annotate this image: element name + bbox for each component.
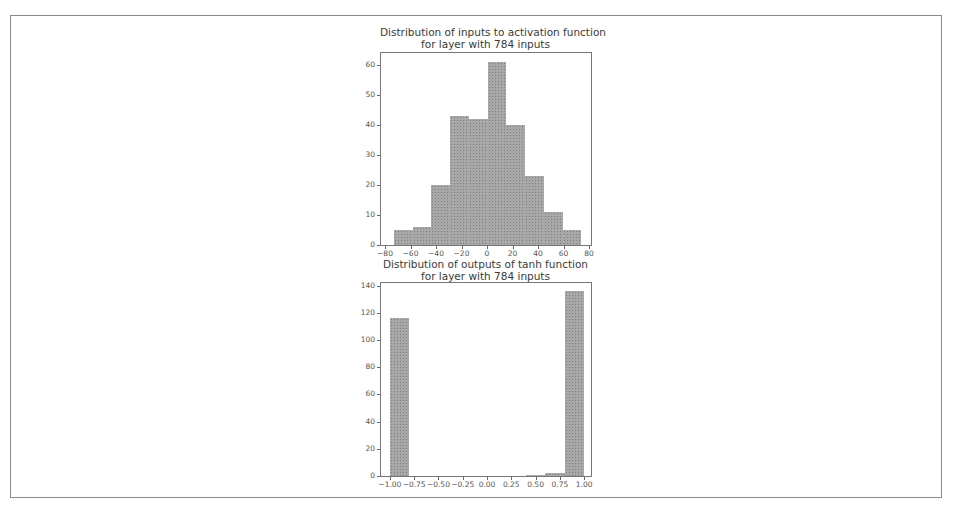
- y-tick-mark: [377, 95, 380, 96]
- y-tick-mark: [377, 313, 380, 314]
- y-tick-mark: [377, 340, 380, 341]
- x-tick-label: 80: [574, 249, 604, 258]
- histogram-bar: [506, 125, 525, 245]
- histogram-bar: [469, 119, 488, 245]
- x-tick-mark: [487, 477, 488, 480]
- y-tick-label: 0: [351, 240, 375, 249]
- y-tick-mark: [377, 422, 380, 423]
- x-tick-mark: [584, 477, 585, 480]
- y-tick-label: 40: [351, 120, 375, 129]
- y-tick-mark: [377, 449, 380, 450]
- y-tick-mark: [377, 367, 380, 368]
- histogram-bar: [450, 116, 469, 245]
- histogram-bar: [413, 227, 432, 245]
- histogram-bar: [545, 473, 564, 476]
- x-tick-mark: [487, 246, 488, 249]
- y-tick-label: 140: [351, 281, 375, 290]
- chart-title: Distribution of outputs of tanh function…: [380, 258, 591, 282]
- y-tick-label: 20: [351, 444, 375, 453]
- x-tick-mark: [438, 477, 439, 480]
- x-tick-mark: [511, 477, 512, 480]
- y-tick-label: 0: [351, 471, 375, 480]
- histogram-bar: [563, 230, 582, 245]
- chart-title: Distribution of inputs to activation fun…: [380, 26, 591, 50]
- x-tick-mark: [385, 246, 386, 249]
- x-tick-mark: [436, 246, 437, 249]
- histogram-bar: [544, 212, 563, 245]
- y-tick-label: 20: [351, 180, 375, 189]
- x-tick-mark: [589, 246, 590, 249]
- x-tick-mark: [513, 246, 514, 249]
- y-tick-mark: [377, 476, 380, 477]
- y-tick-label: 50: [351, 90, 375, 99]
- y-tick-mark: [377, 155, 380, 156]
- x-tick-mark: [560, 477, 561, 480]
- y-tick-label: 100: [351, 335, 375, 344]
- y-tick-label: 60: [351, 389, 375, 398]
- x-tick-mark: [390, 477, 391, 480]
- y-tick-mark: [377, 125, 380, 126]
- histogram-bar: [565, 291, 584, 476]
- x-tick-mark: [538, 246, 539, 249]
- y-tick-label: 80: [351, 362, 375, 371]
- y-tick-label: 40: [351, 417, 375, 426]
- y-tick-label: 10: [351, 210, 375, 219]
- plot-area: [380, 282, 592, 477]
- x-tick-mark: [564, 246, 565, 249]
- histogram-bar: [431, 185, 450, 245]
- y-tick-label: 60: [351, 60, 375, 69]
- histogram-bar: [526, 475, 545, 476]
- x-tick-mark: [462, 246, 463, 249]
- histogram-bar: [525, 176, 544, 245]
- x-tick-mark: [414, 477, 415, 480]
- y-tick-mark: [377, 286, 380, 287]
- x-tick-mark: [536, 477, 537, 480]
- x-tick-mark: [463, 477, 464, 480]
- y-tick-mark: [377, 215, 380, 216]
- x-tick-mark: [411, 246, 412, 249]
- y-tick-mark: [377, 185, 380, 186]
- y-tick-mark: [377, 245, 380, 246]
- y-tick-label: 30: [351, 150, 375, 159]
- histogram-bar: [394, 230, 413, 245]
- y-tick-mark: [377, 65, 380, 66]
- histogram-bar: [390, 318, 409, 476]
- plot-area: [380, 52, 592, 246]
- histogram-bar: [488, 62, 507, 245]
- y-tick-mark: [377, 394, 380, 395]
- y-tick-label: 120: [351, 308, 375, 317]
- x-tick-label: 1.00: [569, 480, 599, 489]
